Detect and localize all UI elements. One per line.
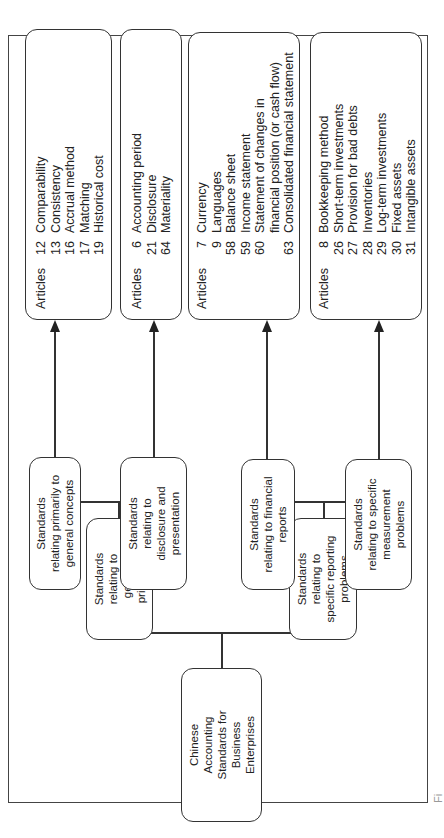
article-title: Comparability [34, 146, 49, 233]
article-number: 31 [404, 233, 419, 259]
article-title: Income statement [239, 52, 254, 233]
article-title: Materiality [159, 133, 174, 233]
article-row: 59Income statement [239, 52, 254, 309]
article-title: financial position (or cash flow) [268, 52, 283, 233]
article-title: Log-term investments [375, 104, 390, 233]
article-row: 63Consolidated financial statement [282, 52, 297, 309]
article-row: 21Disclosure [145, 133, 160, 309]
article-title: Matching [78, 146, 93, 233]
article-number: 27 [346, 233, 361, 259]
arrow-line-financial [266, 332, 268, 459]
article-number: 19 [92, 233, 107, 259]
article-row: 26Short-term investments [332, 104, 347, 309]
article-row: 58Balance sheet [224, 52, 239, 309]
articles-table-measurement: Articles8Bookkeeping method 26Short-term… [317, 104, 419, 309]
connector-root-stem [221, 634, 223, 668]
article-title: Statement of changes in [253, 52, 268, 233]
article-number: 58 [224, 233, 239, 259]
article-title: Balance sheet [224, 52, 239, 233]
articles-label: Articles [317, 259, 332, 309]
article-number: 16 [63, 233, 78, 259]
root-label: Chinese Accounting Standards for Busines… [187, 710, 257, 779]
article-row: 9Languages [210, 52, 225, 309]
article-row: 28Inventories [361, 104, 376, 309]
article-row: 16Accrual method [63, 146, 78, 309]
article-number: 29 [375, 233, 390, 259]
articles-label: Articles [195, 259, 210, 309]
arrowhead-financial-icon [262, 320, 272, 332]
article-row: financial position (or cash flow) [268, 52, 283, 309]
specific-reporting-label: Standards relating to specific reporting… [295, 536, 351, 623]
article-number: 7 [195, 233, 210, 259]
articles-box-general-concepts: Articles12Comparability 13Consistency 16… [25, 29, 112, 320]
article-row: 17Matching [78, 146, 93, 309]
connector-reporting-stem [323, 503, 325, 518]
arrowhead-disclosure-icon [149, 320, 159, 332]
article-number: 63 [282, 233, 297, 259]
article-title: Accrual method [63, 146, 78, 233]
articles-box-measurement: Articles8Bookkeeping method 26Short-term… [310, 32, 422, 320]
financial-reports-label: Standards relating to financial reports [247, 477, 289, 573]
article-number: 9 [210, 233, 225, 259]
article-number: 59 [239, 233, 254, 259]
article-number: 60 [253, 233, 268, 259]
article-number: 6 [130, 233, 145, 259]
box-general-concepts: Standards relating primarily to general … [29, 457, 81, 590]
article-number: 64 [159, 233, 174, 259]
article-row: Articles12Comparability [34, 146, 49, 309]
article-row: 64Materiality [159, 133, 174, 309]
article-title: Accounting period [130, 133, 145, 233]
article-title: Inventories [361, 104, 376, 233]
general-concepts-label: Standards relating primarily to general … [34, 475, 76, 572]
article-number: 8 [317, 233, 332, 259]
article-row: Articles8Bookkeeping method [317, 104, 332, 309]
arrow-line-disclosure [153, 332, 155, 457]
arrow-line-measurement [378, 332, 380, 459]
article-number: 21 [145, 233, 160, 259]
arrowhead-concepts-icon [50, 320, 60, 332]
box-financial-reports: Standards relating to financial reports [241, 459, 295, 590]
article-title: Provision for bad debts [346, 104, 361, 233]
articles-label: Articles [34, 259, 49, 309]
article-row: 30Fixed assets [390, 104, 405, 309]
article-title: Currency [195, 52, 210, 233]
article-number: 28 [361, 233, 376, 259]
article-title: Consolidated financial statement [282, 52, 297, 233]
article-number: 17 [78, 233, 93, 259]
article-number: 13 [49, 233, 64, 259]
articles-table-financial-reports: Articles7Currency 9Languages 58Balance s… [195, 52, 297, 309]
article-number: 26 [332, 233, 347, 259]
article-title: Intangible assets [404, 104, 419, 233]
article-title: Fixed assets [390, 104, 405, 233]
disclosure-presentation-label: Standards relating to disclosure and pre… [126, 486, 182, 560]
article-number: 30 [390, 233, 405, 259]
article-row: 31Intangible assets [404, 104, 419, 309]
article-title: Historical cost [92, 146, 107, 233]
arrow-line-concepts [54, 332, 56, 457]
article-row: 27Provision for bad debts [346, 104, 361, 309]
figure-caption: Fi [432, 794, 444, 803]
article-row: Articles7Currency [195, 52, 210, 309]
articles-label: Articles [130, 259, 145, 309]
article-title: Bookkeeping method [317, 104, 332, 233]
box-measurement-problems: Standards relating to specific measureme… [345, 459, 412, 590]
articles-box-disclosure: Articles6Accounting period 21Disclosure … [120, 29, 182, 320]
articles-table-disclosure: Articles6Accounting period 21Disclosure … [130, 133, 174, 309]
article-row: Articles6Accounting period [130, 133, 145, 309]
article-number [268, 233, 283, 259]
articles-table-general-concepts: Articles12Comparability 13Consistency 16… [34, 146, 107, 309]
article-title: Short-term investments [332, 104, 347, 233]
article-row: 29Log-term investments [375, 104, 390, 309]
article-row: 13Consistency [49, 146, 64, 309]
article-number: 12 [34, 233, 49, 259]
article-title: Languages [210, 52, 225, 233]
article-title: Consistency [49, 146, 64, 233]
article-row: 60Statement of changes in [253, 52, 268, 309]
articles-box-financial-reports: Articles7Currency 9Languages 58Balance s… [188, 32, 300, 320]
box-disclosure-presentation: Standards relating to disclosure and pre… [120, 457, 187, 590]
article-title: Disclosure [145, 133, 160, 233]
article-row: 19Historical cost [92, 146, 107, 309]
root-box-chinese-accounting-standards: Chinese Accounting Standards for Busines… [181, 668, 262, 822]
arrowhead-measurement-icon [374, 320, 384, 332]
